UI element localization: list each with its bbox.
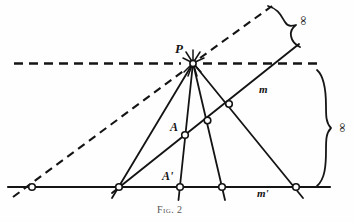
- figure-container: P A A' m m' ∞ ∞ Fig. 2: [0, 0, 354, 222]
- figure-caption: Fig. 2: [157, 204, 182, 215]
- diagonal-dashed-ray-upper: [200, 6, 272, 58]
- label-point-A: A: [170, 121, 178, 133]
- node-C-prime: [293, 184, 300, 191]
- label-point-P: P: [175, 42, 183, 55]
- pencil-of-rays-from-P: [112, 63, 303, 200]
- node-C: [226, 101, 233, 108]
- node-A: [182, 132, 189, 139]
- node-B-prime: [219, 184, 226, 191]
- node-B: [204, 117, 211, 124]
- brace-right-infinity: [317, 70, 331, 186]
- node-Q: [29, 184, 36, 191]
- label-line-m-prime: m': [257, 188, 269, 199]
- label-infinity-upper: ∞: [296, 16, 309, 25]
- node-Z: [116, 184, 123, 191]
- brace-upper-infinity: [268, 6, 300, 47]
- label-infinity-right: ∞: [335, 123, 348, 132]
- figure-drawing: [0, 0, 354, 222]
- node-A-prime: [177, 184, 184, 191]
- label-point-A-prime: A': [162, 170, 173, 182]
- label-line-m: m: [259, 84, 268, 95]
- diagonal-dashed-ray-lower: [13, 69, 186, 197]
- node-P: [190, 60, 196, 66]
